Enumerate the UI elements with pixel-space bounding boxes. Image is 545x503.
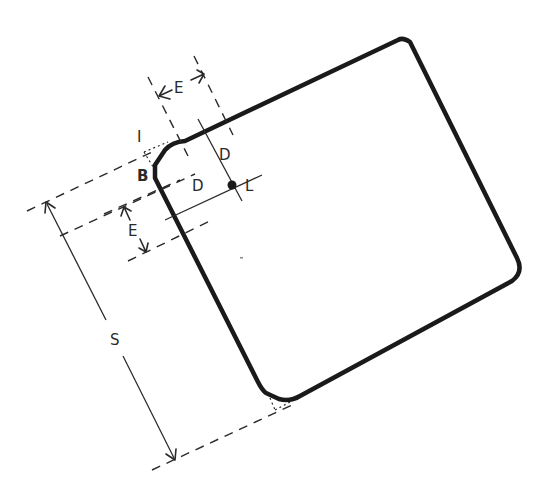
label-b: B (137, 167, 148, 185)
label-d-lower: D (192, 177, 204, 195)
dimension-line-s-lower (123, 356, 174, 458)
label-l: L (245, 177, 254, 195)
dimension-line-s-upper (47, 204, 106, 320)
label-i: I (137, 128, 141, 146)
insert-outline (155, 39, 520, 400)
label-s: S (110, 331, 120, 349)
label-d-upper: D (219, 146, 231, 164)
extension-line-s-bottom (152, 405, 292, 470)
insert-diagram: E D D L I B E S (0, 0, 545, 503)
speck (240, 257, 243, 259)
reference-point-l (228, 181, 237, 190)
label-e-left: E (128, 222, 137, 240)
label-e-top: E (174, 79, 183, 97)
chamfer-construction-bottom-1 (270, 398, 275, 410)
